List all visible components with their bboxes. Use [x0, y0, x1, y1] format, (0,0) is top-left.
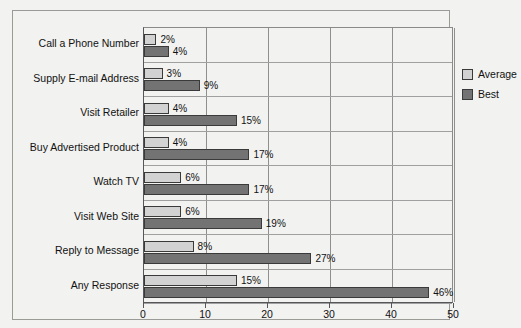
bar-value-label: 17% — [253, 185, 273, 195]
bar-value-label: 15% — [241, 116, 261, 126]
bar-value-label: 27% — [315, 254, 335, 264]
legend-swatch-icon-average — [462, 69, 473, 80]
x-tick-label-0: 0 — [140, 309, 146, 320]
legend-label: Average — [478, 69, 517, 80]
x-tick-label-30: 30 — [323, 309, 335, 320]
bar-value-label: 4% — [173, 138, 187, 148]
bar-average-4 — [144, 172, 181, 183]
bar-average-3 — [144, 137, 169, 148]
category-label-6: Reply to Message — [21, 245, 139, 256]
bar-best-3 — [144, 149, 249, 160]
bar-average-6 — [144, 241, 194, 252]
band-separator — [144, 131, 452, 132]
bar-value-label: 17% — [253, 150, 273, 160]
bar-value-label: 6% — [185, 207, 199, 217]
bar-average-5 — [144, 206, 181, 217]
category-label-4: Watch TV — [21, 176, 139, 187]
bar-average-2 — [144, 103, 169, 114]
chart-legend: AverageBest — [462, 68, 521, 108]
bar-value-label: 19% — [266, 219, 286, 229]
x-axis: 01020304050 — [143, 303, 453, 327]
category-label-2: Visit Retailer — [21, 107, 139, 118]
gridline-50 — [454, 28, 455, 302]
band-separator — [144, 234, 452, 235]
legend-item-average: Average — [462, 68, 521, 81]
x-tick-label-10: 10 — [199, 309, 211, 320]
legend-label: Best — [478, 89, 499, 100]
band-separator — [144, 96, 452, 97]
bar-value-label: 4% — [173, 104, 187, 114]
bar-value-label: 3% — [167, 69, 181, 79]
bar-best-4 — [144, 184, 249, 195]
bar-value-label: 46% — [433, 288, 453, 298]
bar-average-0 — [144, 34, 156, 45]
bar-best-7 — [144, 287, 429, 298]
bar-value-label: 8% — [198, 242, 212, 252]
chart-frame: Call a Phone NumberSupply E-mail Address… — [12, 10, 450, 320]
x-tick-label-50: 50 — [447, 309, 459, 320]
band-separator — [144, 269, 452, 270]
bar-average-1 — [144, 68, 163, 79]
bar-value-label: 9% — [204, 81, 218, 91]
category-label-1: Supply E-mail Address — [21, 73, 139, 84]
category-label-7: Any Response — [21, 280, 139, 291]
legend-item-best: Best — [462, 88, 521, 101]
category-label-5: Visit Web Site — [21, 211, 139, 222]
band-separator — [144, 165, 452, 166]
bar-best-0 — [144, 46, 169, 57]
bar-best-1 — [144, 80, 200, 91]
x-tick-label-20: 20 — [261, 309, 273, 320]
bar-best-5 — [144, 218, 262, 229]
bar-best-6 — [144, 253, 311, 264]
bar-value-label: 15% — [241, 276, 261, 286]
category-axis-labels: Call a Phone NumberSupply E-mail Address… — [17, 27, 139, 303]
plot-area: 2%4%3%9%4%15%4%17%6%17%6%19%8%27%15%46% … — [143, 27, 453, 303]
category-label-0: Call a Phone Number — [21, 38, 139, 49]
band-separator — [144, 62, 452, 63]
bar-average-7 — [144, 275, 237, 286]
bar-best-2 — [144, 115, 237, 126]
bar-value-label: 4% — [173, 47, 187, 57]
bar-value-label: 2% — [160, 35, 174, 45]
bar-value-label: 6% — [185, 173, 199, 183]
category-label-3: Buy Advertised Product — [21, 142, 139, 153]
legend-swatch-icon-best — [462, 89, 473, 100]
x-tick-label-40: 40 — [385, 309, 397, 320]
band-separator — [144, 200, 452, 201]
